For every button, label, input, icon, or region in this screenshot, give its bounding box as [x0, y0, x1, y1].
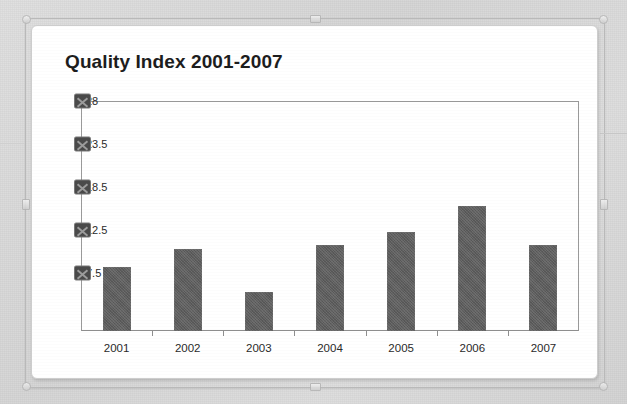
x-axis-tick-label-2004: 2004	[317, 342, 343, 354]
corner-resize-handle-bottom-right[interactable]	[599, 382, 608, 391]
x-axis-tick-label-2006: 2006	[459, 342, 485, 354]
x-axis-tick-label-2007: 2007	[531, 342, 557, 354]
x-axis-tick-label-2003: 2003	[246, 342, 272, 354]
axis-selection-marker-icon[interactable]	[74, 94, 91, 109]
leader-line-artifact-left	[0, 143, 24, 144]
corner-resize-handle-bottom-left[interactable]	[22, 382, 31, 391]
x-axis-tick-label-2001: 2001	[104, 342, 130, 354]
axis-selection-marker-icon[interactable]	[74, 223, 91, 238]
x-axis-tick	[223, 331, 224, 336]
bar-2002[interactable]	[174, 249, 202, 331]
bar-2001[interactable]	[103, 267, 131, 332]
x-axis-tick	[508, 331, 509, 336]
x-axis-tick	[294, 331, 295, 336]
x-axis-tick	[152, 331, 153, 336]
bar-2005[interactable]	[387, 232, 415, 331]
axis-selection-marker-icon[interactable]	[74, 180, 91, 195]
resize-handle-left[interactable]	[22, 199, 30, 210]
chart-card[interactable]: Quality Index 2001-2007 2823.518.512.57.…	[31, 25, 598, 379]
resize-handle-top[interactable]	[310, 15, 321, 23]
resize-handle-right[interactable]	[600, 199, 608, 210]
chart-title: Quality Index 2001-2007	[65, 51, 283, 73]
corner-resize-handle-top-left[interactable]	[22, 15, 31, 24]
axis-selection-marker-icon[interactable]	[74, 266, 91, 281]
bar-2006[interactable]	[458, 206, 486, 331]
resize-handle-bottom[interactable]	[310, 383, 321, 391]
x-axis-tick	[366, 331, 367, 336]
x-axis-tick-label-2002: 2002	[175, 342, 201, 354]
corner-resize-handle-top-right[interactable]	[599, 15, 608, 24]
bar-2003[interactable]	[245, 292, 273, 331]
bar-2004[interactable]	[316, 245, 344, 331]
x-axis-tick	[437, 331, 438, 336]
leader-line-artifact-right	[600, 133, 627, 134]
x-axis-tick-label-2005: 2005	[388, 342, 414, 354]
axis-selection-marker-icon[interactable]	[74, 137, 91, 152]
bar-2007[interactable]	[529, 245, 557, 331]
